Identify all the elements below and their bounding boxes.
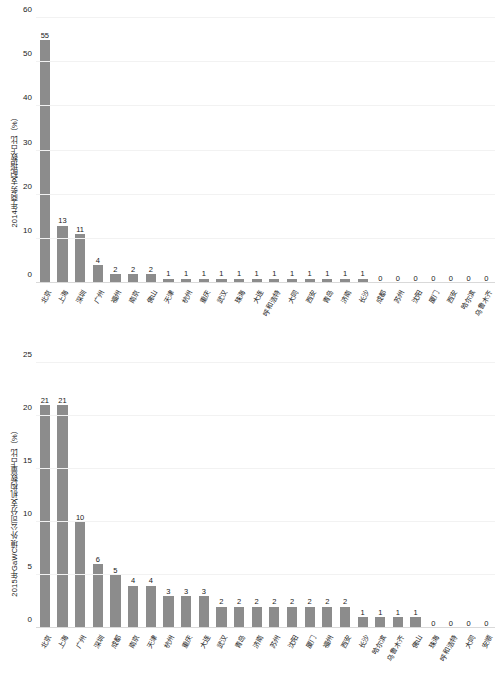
x-axis-label-text: 南京 (126, 633, 142, 650)
bar-value-label: 1 (414, 609, 418, 617)
bar[interactable]: 3 (181, 596, 191, 628)
bar[interactable]: 3 (163, 596, 173, 628)
bar-slot[interactable]: 3 (160, 363, 178, 628)
bar-slot[interactable]: 21 (36, 363, 54, 628)
grid-line (36, 105, 495, 106)
bar-slot[interactable]: 10 (71, 363, 89, 628)
grid-line (36, 415, 495, 416)
bar[interactable]: 2 (340, 607, 350, 628)
bar-slot[interactable]: 55 (36, 18, 54, 283)
bar-slot[interactable]: 1 (371, 363, 389, 628)
x-axis-label-text: 安顺 (479, 633, 495, 650)
x-axis-label: 武汉 (213, 286, 231, 336)
bar-value-label: 4 (131, 577, 135, 585)
bar-slot[interactable]: 0 (442, 363, 460, 628)
bar-slot[interactable]: 0 (424, 363, 442, 628)
x-axis-label: 呼和浩特 (266, 286, 284, 336)
bar-slot[interactable]: 1 (266, 18, 284, 283)
bar[interactable]: 2 (252, 607, 262, 628)
bar[interactable]: 2 (305, 607, 315, 628)
x-axis-label: 沈阳 (407, 286, 425, 336)
bar-slot[interactable]: 2 (283, 363, 301, 628)
bar-slot[interactable]: 3 (177, 363, 195, 628)
bar-slot[interactable]: 0 (460, 18, 478, 283)
x-axis-label-text: 广州 (91, 288, 107, 305)
y-axis-tick-label: 40 (23, 93, 32, 102)
bar-slot[interactable]: 1 (177, 18, 195, 283)
bar-slot[interactable]: 1 (354, 363, 372, 628)
x-axis-label-text: 济南 (250, 633, 266, 650)
bar-slot[interactable]: 0 (389, 18, 407, 283)
bar-value-label: 1 (272, 270, 276, 278)
bar-slot[interactable]: 4 (89, 18, 107, 283)
bar-slot[interactable]: 5 (107, 363, 125, 628)
bar-slot[interactable]: 6 (89, 363, 107, 628)
bar-slot[interactable]: 0 (460, 363, 478, 628)
bar[interactable]: 11 (75, 234, 85, 283)
bar-slot[interactable]: 0 (407, 18, 425, 283)
x-axis-label-text: 成都 (108, 633, 124, 650)
x-axis-label: 南京 (124, 286, 142, 336)
bar-slot[interactable]: 1 (319, 18, 337, 283)
bar[interactable]: 13 (57, 226, 67, 283)
bar-slot[interactable]: 4 (124, 363, 142, 628)
x-axis-label-text: 厦门 (303, 633, 319, 650)
bar-slot[interactable]: 1 (248, 18, 266, 283)
bar-slot[interactable]: 2 (213, 363, 231, 628)
bar[interactable]: 2 (322, 607, 332, 628)
x-axis-label: 杭州 (160, 631, 178, 681)
bar-slot[interactable]: 13 (54, 18, 72, 283)
x-axis-label: 成都 (107, 631, 125, 681)
x-axis-label: 西安 (301, 286, 319, 336)
bar-slot[interactable]: 2 (142, 18, 160, 283)
bar[interactable]: 4 (93, 265, 103, 283)
bar-value-label: 11 (76, 226, 84, 234)
bar-slot[interactable]: 0 (477, 18, 495, 283)
bar-slot[interactable]: 1 (336, 18, 354, 283)
bar-slot[interactable]: 1 (230, 18, 248, 283)
bar-slot[interactable]: 1 (160, 18, 178, 283)
bar-slot[interactable]: 0 (442, 18, 460, 283)
bar-slot[interactable]: 3 (195, 363, 213, 628)
bar[interactable]: 21 (40, 405, 50, 628)
bar-slot[interactable]: 2 (266, 363, 284, 628)
bar-slot[interactable]: 1 (301, 18, 319, 283)
bar-value-label: 5 (113, 567, 117, 575)
bar-slot[interactable]: 1 (389, 363, 407, 628)
bar-slot[interactable]: 2 (336, 363, 354, 628)
bar[interactable]: 55 (40, 40, 50, 283)
bar[interactable]: 10 (75, 522, 85, 628)
bar-slot[interactable]: 1 (354, 18, 372, 283)
bar-slot[interactable]: 2 (107, 18, 125, 283)
bar[interactable]: 2 (234, 607, 244, 628)
bar-slot[interactable]: 0 (424, 18, 442, 283)
bar[interactable]: 2 (216, 607, 226, 628)
bar-slot[interactable]: 1 (213, 18, 231, 283)
bar[interactable]: 21 (57, 405, 67, 628)
bar-slot[interactable]: 1 (283, 18, 301, 283)
bar[interactable]: 5 (110, 575, 120, 628)
x-axis-label: 重庆 (177, 631, 195, 681)
bar[interactable]: 2 (269, 607, 279, 628)
bar-slot[interactable]: 2 (319, 363, 337, 628)
bar-slot[interactable]: 21 (54, 363, 72, 628)
bar[interactable]: 2 (287, 607, 297, 628)
bar-slot[interactable]: 11 (71, 18, 89, 283)
bar-slot[interactable]: 4 (142, 363, 160, 628)
bar-slot[interactable]: 0 (371, 18, 389, 283)
bar-slot[interactable]: 2 (230, 363, 248, 628)
bar-slot[interactable]: 2 (248, 363, 266, 628)
x-axis-label: 上海 (54, 631, 72, 681)
bar-slot[interactable]: 0 (477, 363, 495, 628)
bar[interactable]: 3 (199, 596, 209, 628)
bar-slot[interactable]: 2 (124, 18, 142, 283)
x-axis-label-text: 上海 (55, 288, 71, 305)
bar-value-label: 0 (431, 275, 435, 283)
bar-value-label: 10 (76, 514, 84, 522)
grid-line (36, 468, 495, 469)
bar[interactable]: 4 (128, 586, 138, 628)
bar-slot[interactable]: 2 (301, 363, 319, 628)
bar-slot[interactable]: 1 (407, 363, 425, 628)
bar-slot[interactable]: 1 (195, 18, 213, 283)
bar[interactable]: 4 (146, 586, 156, 628)
